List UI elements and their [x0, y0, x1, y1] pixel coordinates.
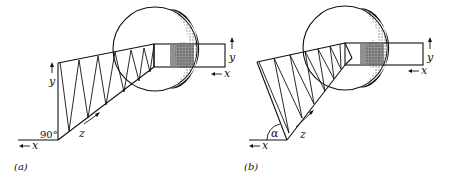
output-x-label-b: x: [421, 64, 428, 77]
z-arrow-b: [296, 110, 314, 127]
output-y-label-a: y: [228, 51, 236, 64]
panel-b: x α z y x y (b): [228, 6, 434, 172]
output-x-arrow-b: [408, 69, 419, 73]
output-x-label-a: x: [224, 67, 231, 80]
caption-a: (a): [14, 161, 28, 172]
angle-label-a: 90°: [40, 129, 58, 140]
x-arrow-a: [19, 144, 30, 148]
output-y-arrow-b: [428, 37, 432, 49]
z-label-b: z: [299, 128, 306, 141]
output-y-arrow-a: [230, 37, 234, 49]
x-label-b: x: [262, 139, 269, 152]
figure: x y 90° z x (a): [0, 0, 450, 182]
y-arrow-a: [50, 62, 54, 73]
angle-label-b: α: [271, 127, 279, 140]
y-label-a: y: [48, 75, 56, 88]
x-arrow-b: [249, 144, 260, 148]
output-y-label-b: y: [426, 51, 434, 64]
caption-b: (b): [244, 161, 258, 172]
output-x-arrow-a: [211, 72, 222, 76]
x-label-a: x: [32, 139, 39, 152]
z-label-a: z: [78, 127, 85, 140]
panel-a: x y 90° z x (a): [14, 7, 231, 172]
